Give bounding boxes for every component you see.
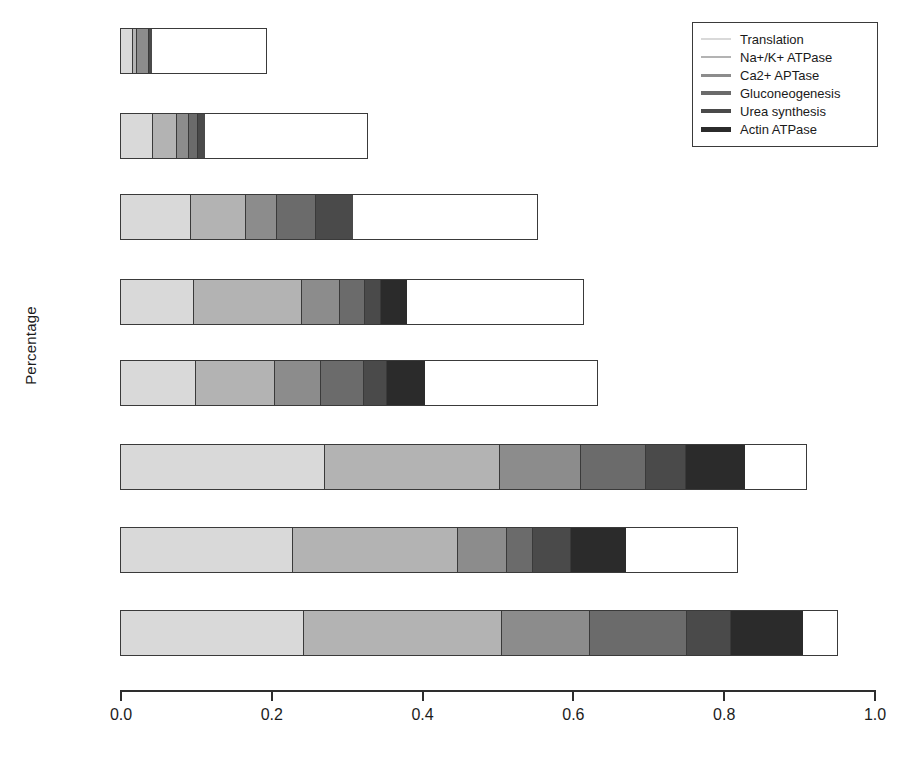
bar-segment — [533, 528, 571, 572]
stacked-bar — [120, 194, 538, 240]
legend-item-label: Gluconeogenesis — [740, 87, 840, 100]
stacked-bar — [120, 360, 598, 406]
bar-segment — [196, 361, 274, 405]
legend-item: Na+/K+ ATPase — [701, 48, 869, 66]
bar-segment — [121, 361, 196, 405]
legend-item-label: Translation — [740, 33, 804, 46]
chart-page: Percentage 0.00.20.40.60.81.0 Translatio… — [0, 0, 904, 764]
x-axis-tick — [422, 690, 424, 701]
legend-item: Urea synthesis — [701, 102, 869, 120]
bar-segment — [731, 611, 803, 655]
legend-line-icon — [701, 56, 731, 58]
legend-line-icon — [701, 127, 731, 132]
x-axis-tick-label: 0.6 — [562, 706, 584, 724]
bar-segment — [590, 611, 687, 655]
x-axis-tick — [120, 690, 122, 701]
bar-segment — [137, 29, 149, 73]
x-axis-tick — [572, 690, 574, 701]
bar-segment — [365, 280, 381, 324]
bar-segment — [381, 280, 407, 324]
bar-segment — [121, 195, 191, 239]
x-axis-tick-label: 0.8 — [713, 706, 735, 724]
x-axis-tick-label: 0.4 — [411, 706, 433, 724]
legend-item: Ca2+ APTase — [701, 66, 869, 84]
bar-segment — [304, 611, 502, 655]
bar-segment — [189, 114, 198, 158]
legend-line-icon — [701, 91, 731, 95]
legend-line-icon — [701, 38, 731, 40]
x-axis-tick — [723, 690, 725, 701]
bar-segment — [581, 445, 646, 489]
bar-segment — [302, 280, 340, 324]
bar-segment — [293, 528, 458, 572]
bar-segment — [177, 114, 189, 158]
legend-line-icon — [701, 74, 731, 77]
legend-item-label: Ca2+ APTase — [740, 69, 819, 82]
stacked-bar — [120, 113, 368, 159]
bar-segment — [275, 361, 322, 405]
bar-segment — [121, 528, 293, 572]
x-axis-tick-label: 1.0 — [864, 706, 886, 724]
bar-segment — [198, 114, 205, 158]
bar-segment — [121, 29, 133, 73]
bar-segment — [121, 445, 325, 489]
bar-segment — [325, 445, 500, 489]
x-axis-tick-label: 0.0 — [110, 706, 132, 724]
bar-segment — [340, 280, 365, 324]
legend-item-label: Urea synthesis — [740, 105, 826, 118]
bar-segment — [277, 195, 316, 239]
bar-segment — [194, 280, 302, 324]
stacked-bar — [120, 444, 807, 490]
x-axis-tick — [874, 690, 876, 701]
bar-segment — [571, 528, 626, 572]
bar-segment — [316, 195, 353, 239]
bar-segment — [191, 195, 246, 239]
bar-segment — [500, 445, 581, 489]
bar-segment — [458, 528, 508, 572]
bar-segment — [321, 361, 364, 405]
bar-segment — [646, 445, 686, 489]
x-axis-tick-label: 0.2 — [261, 706, 283, 724]
stacked-bar — [120, 28, 267, 74]
bar-segment — [121, 611, 304, 655]
x-axis-tick — [271, 690, 273, 701]
bar-segment — [387, 361, 425, 405]
bar-segment — [153, 114, 178, 158]
legend: TranslationNa+/K+ ATPaseCa2+ APTaseGluco… — [692, 22, 878, 147]
bar-segment — [686, 445, 746, 489]
legend-item: Gluconeogenesis — [701, 84, 869, 102]
legend-item-label: Na+/K+ ATPase — [740, 51, 832, 64]
bar-segment — [507, 528, 532, 572]
legend-item-label: Actin ATPase — [740, 123, 817, 136]
x-axis: 0.00.20.40.60.81.0 — [0, 690, 904, 760]
x-axis-line — [120, 690, 874, 692]
bar-segment — [121, 114, 153, 158]
stacked-bar — [120, 279, 584, 325]
bar-segment — [364, 361, 387, 405]
bar-segment — [246, 195, 277, 239]
bar-segment — [149, 29, 152, 73]
legend-line-icon — [701, 109, 731, 113]
bar-segment — [121, 280, 194, 324]
stacked-bar — [120, 610, 838, 656]
legend-item: Translation — [701, 30, 869, 48]
legend-item: Actin ATPase — [701, 120, 869, 138]
stacked-bar — [120, 527, 738, 573]
bar-segment — [502, 611, 590, 655]
bar-segment — [687, 611, 731, 655]
